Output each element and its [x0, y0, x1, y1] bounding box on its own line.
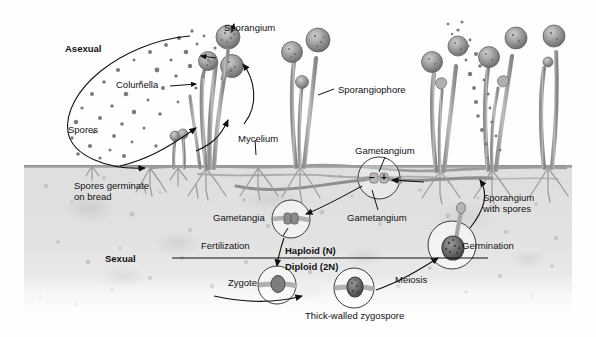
label-spores-germinate-1: Spores germinate — [74, 180, 149, 191]
label-meiosis: Meiosis — [395, 274, 427, 285]
label-columella: Columella — [116, 79, 158, 90]
label-thick-walled-zygospore: Thick-walled zygospore — [305, 310, 404, 321]
leader-gametangia — [283, 228, 288, 236]
arrow-fertilization — [277, 238, 284, 266]
label-diploid: Diploid (2N) — [285, 261, 338, 272]
arrow-spore-release — [201, 56, 216, 58]
label-germination: Germination — [462, 240, 514, 251]
arrow-maturation — [243, 64, 254, 124]
arrow-hypha-to-gametangium — [392, 180, 424, 182]
label-zygote: Zygote — [228, 277, 257, 288]
diploid-paren: (2N) — [320, 261, 338, 272]
fungal-life-cycle-diagram: Asexual Sporangium Columella Spores Myce… — [0, 0, 596, 337]
label-sporangiophore: Sporangiophore — [338, 84, 406, 95]
label-sporangium-with-spores-2: with spores — [483, 203, 531, 214]
sexual-heading: Sexual — [105, 253, 136, 264]
label-sporangium: Sporangium — [224, 22, 275, 33]
mating-type-plus: + — [381, 172, 387, 183]
diploid-text: Diploid — [285, 261, 317, 272]
arrow-germ-to-hypha — [120, 128, 196, 166]
label-gametangium-lower: Gametangium — [347, 212, 407, 223]
mating-type-minus: – — [369, 172, 375, 183]
leader-sporangiophore — [318, 89, 334, 95]
arrow-asexual-dispersal — [68, 36, 190, 168]
arrow-growth — [196, 120, 228, 151]
arrow-zygote-to-zygospore — [214, 296, 302, 301]
leader-columella — [170, 84, 196, 86]
label-haploid: Haploid (N) — [285, 245, 336, 256]
haploid-paren: (N) — [322, 245, 335, 256]
asexual-heading: Asexual — [65, 43, 101, 54]
haploid-text: Haploid — [285, 245, 320, 256]
label-gametangium-top: Gametangium — [355, 145, 415, 156]
arrow-to-gametangia — [306, 186, 362, 214]
label-sporangium-with-spores-1: Sporangium — [483, 192, 534, 203]
label-fertilization: Fertilization — [201, 240, 250, 251]
label-spores: Spores — [68, 124, 98, 135]
label-mycelium: Mycelium — [238, 133, 278, 144]
label-spores-germinate-2: on bread — [74, 191, 112, 202]
leader-gametangium-lower — [372, 190, 378, 210]
label-gametangia: Gametangia — [213, 212, 265, 223]
leader-gametangium-top — [379, 157, 385, 172]
